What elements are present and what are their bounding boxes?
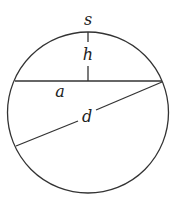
diameter-upper — [96, 82, 162, 110]
label-h: h — [83, 45, 93, 64]
label-d: d — [82, 107, 92, 126]
label-s: s — [84, 10, 92, 29]
label-a: a — [55, 82, 65, 101]
diameter-lower — [16, 121, 78, 146]
circle-diagram: s h a d — [0, 0, 170, 200]
